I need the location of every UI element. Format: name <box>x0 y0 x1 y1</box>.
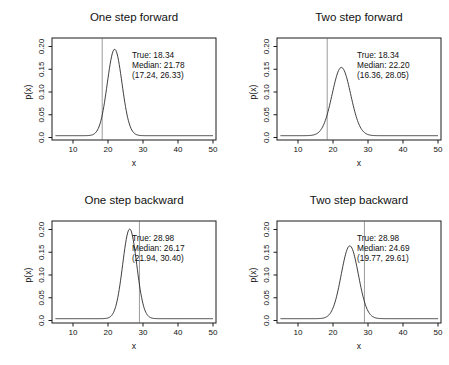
x-tick-label: 30 <box>363 145 372 154</box>
x-tick-label: 50 <box>433 328 442 337</box>
plot-panel: Two step forward 10203040500.00.050.100.… <box>225 0 449 183</box>
x-tick-label: 10 <box>293 145 302 154</box>
plot-panel: One step backward 10203040500.00.050.100… <box>0 183 225 365</box>
y-tick-label: 0.05 <box>37 106 46 122</box>
y-tick-label: 0.0 <box>37 131 46 143</box>
y-tick-label: 0.05 <box>262 106 271 122</box>
y-tick-label: 0.0 <box>262 131 271 143</box>
annotation-interval: (17.24, 26.33) <box>132 70 184 80</box>
y-tick-label: 0.20 <box>37 38 46 54</box>
y-axis-label: p(x) <box>23 267 33 282</box>
y-tick-label: 0.20 <box>262 221 271 237</box>
x-tick-label: 40 <box>398 145 407 154</box>
y-tick-label: 0.0 <box>37 314 46 326</box>
y-tick-label: 0.15 <box>37 243 46 259</box>
plot-geometry: 10203040500.00.050.100.150.20 <box>262 38 443 154</box>
plot-svg: One step forward 10203040500.00.050.100.… <box>0 0 225 183</box>
x-axis-label: x <box>356 158 361 168</box>
x-tick-label: 10 <box>69 328 78 337</box>
y-axis-label: p(x) <box>248 267 258 282</box>
x-tick-label: 20 <box>328 145 337 154</box>
annotation-true: True: 18.34 <box>357 50 400 60</box>
x-tick-label: 20 <box>104 328 113 337</box>
x-tick-label: 30 <box>139 145 148 154</box>
y-tick-label: 0.10 <box>37 84 46 100</box>
annotation-true: True: 28.98 <box>357 233 400 243</box>
x-axis-label: x <box>132 341 137 351</box>
plot-title: Two step backward <box>309 194 407 206</box>
plot-geometry: 10203040500.00.050.100.150.20 <box>262 221 443 337</box>
x-tick-label: 40 <box>174 145 183 154</box>
annotation-interval: (16.36, 28.05) <box>357 70 409 80</box>
y-tick-label: 0.10 <box>37 266 46 282</box>
annotation-median: Median: 24.69 <box>357 243 410 253</box>
y-tick-label: 0.10 <box>262 266 271 282</box>
plot-panel: Two step backward 10203040500.00.050.100… <box>225 183 449 365</box>
annotation-median: Median: 21.78 <box>132 60 185 70</box>
x-tick-label: 20 <box>328 328 337 337</box>
plot-svg: Two step forward 10203040500.00.050.100.… <box>225 0 449 183</box>
plot-geometry: 10203040500.00.050.100.150.20 <box>37 221 218 337</box>
x-tick-label: 10 <box>293 328 302 337</box>
annotation-median: Median: 26.17 <box>132 243 185 253</box>
figure: One step forward 10203040500.00.050.100.… <box>0 0 449 365</box>
plot-panel: One step forward 10203040500.00.050.100.… <box>0 0 225 183</box>
x-tick-label: 50 <box>209 328 218 337</box>
y-tick-label: 0.15 <box>262 61 271 77</box>
x-tick-label: 50 <box>209 145 218 154</box>
y-tick-label: 0.15 <box>37 61 46 77</box>
plot-svg: One step backward 10203040500.00.050.100… <box>0 183 225 365</box>
x-axis-label: x <box>132 158 137 168</box>
plot-grid: One step forward 10203040500.00.050.100.… <box>0 0 449 365</box>
plot-title: Two step forward <box>315 11 403 23</box>
x-tick-label: 20 <box>104 145 113 154</box>
y-tick-label: 0.20 <box>37 221 46 237</box>
plot-title: One step backward <box>84 194 183 206</box>
x-tick-label: 40 <box>174 328 183 337</box>
y-tick-label: 0.10 <box>262 84 271 100</box>
y-tick-label: 0.15 <box>262 243 271 259</box>
annotation-true: True: 28.98 <box>132 233 175 243</box>
plot-title: One step forward <box>90 11 178 23</box>
x-tick-label: 30 <box>139 328 148 337</box>
annotation-interval: (19.77, 29.61) <box>357 253 409 263</box>
plot-geometry: 10203040500.00.050.100.150.20 <box>37 38 218 154</box>
x-tick-label: 30 <box>363 328 372 337</box>
y-axis-label: p(x) <box>23 84 33 99</box>
x-tick-label: 40 <box>398 328 407 337</box>
annotation-interval: (21.94, 30.40) <box>132 253 184 263</box>
y-tick-label: 0.0 <box>262 314 271 326</box>
y-tick-label: 0.20 <box>262 38 271 54</box>
x-tick-label: 50 <box>433 145 442 154</box>
y-tick-label: 0.05 <box>262 289 271 305</box>
y-tick-label: 0.05 <box>37 289 46 305</box>
annotation-true: True: 18.34 <box>132 50 175 60</box>
x-tick-label: 10 <box>69 145 78 154</box>
y-axis-label: p(x) <box>248 84 258 99</box>
x-axis-label: x <box>356 341 361 351</box>
annotation-median: Median: 22.20 <box>357 60 410 70</box>
plot-svg: Two step backward 10203040500.00.050.100… <box>225 183 449 365</box>
